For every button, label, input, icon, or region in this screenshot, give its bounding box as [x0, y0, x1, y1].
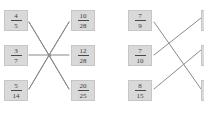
fraction-denominator: 7 — [14, 57, 18, 65]
fraction-denominator: 25 — [80, 92, 87, 100]
fraction-box-left-1[interactable]: 45 — [4, 10, 28, 31]
fraction-box-left-3[interactable]: 514 — [4, 80, 28, 101]
fraction-numerator: 5 — [14, 82, 18, 90]
fraction-box-left-3[interactable]: 815 — [128, 80, 152, 101]
fraction-box-right-3[interactable]: 2025 — [71, 80, 95, 101]
fraction-denominator: 28 — [80, 57, 87, 65]
connector-line-4 — [29, 22, 49, 55]
matching-group-1: 4537514102812282025 — [0, 0, 102, 139]
fraction-numerator: 4 — [14, 12, 18, 20]
fraction-box-right-2[interactable]: 1228 — [71, 45, 95, 66]
connector-line-3 — [154, 50, 201, 89]
fraction-numerator: 8 — [138, 82, 142, 90]
connector-line-6 — [49, 22, 69, 55]
fraction-denominator: 5 — [14, 22, 18, 30]
fraction-numerator: 7 — [138, 47, 142, 55]
fraction-denominator: 9 — [138, 22, 142, 30]
fraction-box-right-2[interactable] — [201, 45, 204, 66]
fraction-box-left-2[interactable]: 710 — [128, 45, 152, 66]
fraction-denominator: 28 — [80, 22, 87, 30]
fraction-box-left-2[interactable]: 37 — [4, 45, 28, 66]
fraction-numerator: 7 — [138, 12, 142, 20]
fraction-numerator: 3 — [14, 47, 18, 55]
connector-hub — [48, 54, 51, 57]
fraction-numerator: 10 — [80, 12, 87, 20]
fraction-numerator: 20 — [80, 82, 87, 90]
connector-line-2 — [154, 18, 201, 55]
fraction-denominator: 14 — [13, 92, 20, 100]
fraction-box-right-1[interactable] — [201, 10, 204, 31]
connector-line-1 — [154, 22, 201, 89]
matching-group-2: 79710815 — [102, 0, 204, 139]
fraction-denominator: 15 — [137, 92, 144, 100]
connector-line-7 — [49, 55, 69, 89]
connector-lines-group-2 — [102, 0, 204, 139]
worksheet-canvas: 4537514102812282025 79710815 — [0, 0, 204, 139]
fraction-box-left-1[interactable]: 79 — [128, 10, 152, 31]
fraction-box-right-3[interactable] — [201, 80, 204, 101]
fraction-numerator: 12 — [80, 47, 87, 55]
fraction-box-right-1[interactable]: 1028 — [71, 10, 95, 31]
connector-line-5 — [29, 55, 49, 89]
fraction-denominator: 10 — [137, 57, 144, 65]
